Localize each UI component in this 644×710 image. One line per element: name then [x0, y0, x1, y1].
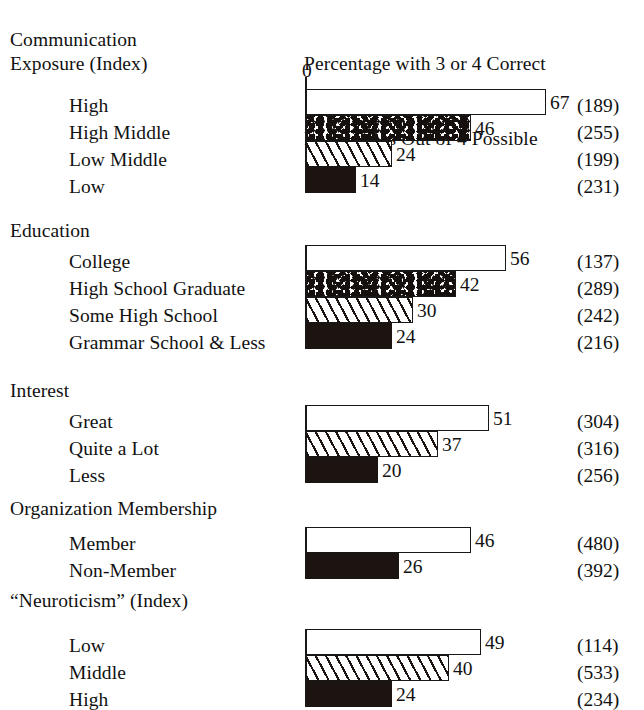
sample-size-label: (242) — [577, 306, 619, 326]
bar — [306, 629, 481, 655]
row-label: Quite a Lot — [69, 439, 159, 459]
group-heading-line: Education — [10, 219, 90, 243]
row-label: Some High School — [69, 306, 218, 326]
bar — [306, 323, 392, 349]
group-heading-line: “Neuroticism” (Index) — [10, 589, 188, 613]
bar — [306, 405, 489, 431]
group-heading: CommunicationExposure (Index) — [10, 28, 148, 76]
row-label: Member — [69, 534, 136, 554]
bar-value-label: 26 — [403, 557, 423, 577]
bar-value-label: 46 — [475, 119, 495, 139]
bar — [306, 431, 438, 457]
row-label: High School Graduate — [69, 279, 245, 299]
sample-size-label: (216) — [577, 333, 619, 353]
group-heading: “Neuroticism” (Index) — [10, 589, 188, 613]
group-heading-line: Communication — [10, 28, 148, 52]
bar-value-label: 20 — [382, 461, 402, 481]
sample-size-label: (316) — [577, 439, 619, 459]
bar — [306, 245, 506, 271]
bar — [306, 681, 392, 707]
sample-size-label: (304) — [577, 412, 619, 432]
row-label: Middle — [69, 663, 126, 683]
bar — [306, 457, 378, 483]
bar — [306, 655, 449, 681]
bar — [306, 527, 471, 553]
bar — [306, 89, 546, 115]
bar — [306, 115, 471, 141]
bar-value-label: 67 — [550, 93, 570, 113]
bar-value-label: 46 — [475, 531, 495, 551]
sample-size-label: (255) — [577, 123, 619, 143]
row-label: Low — [69, 177, 105, 197]
bar — [306, 553, 399, 579]
bar — [306, 167, 356, 193]
group-heading-line: Organization Membership — [10, 497, 217, 521]
sample-size-label: (234) — [577, 690, 619, 710]
sample-size-label: (533) — [577, 663, 619, 683]
sample-size-label: (114) — [577, 636, 619, 656]
group-heading-line: Interest — [10, 379, 69, 403]
row-label: Grammar School & Less — [69, 333, 266, 353]
row-label: High — [69, 690, 108, 710]
sample-size-label: (137) — [577, 252, 619, 272]
row-label: Low — [69, 636, 105, 656]
bar-value-label: 24 — [396, 327, 416, 347]
sample-size-label: (189) — [577, 96, 619, 116]
bar-value-label: 49 — [485, 633, 505, 653]
group-heading: Organization Membership — [10, 497, 217, 521]
bar-value-label: 42 — [460, 275, 480, 295]
group-heading: Interest — [10, 379, 69, 403]
bar-value-label: 24 — [396, 685, 416, 705]
bar — [306, 297, 413, 323]
bar — [306, 141, 392, 167]
bar-value-label: 56 — [510, 249, 530, 269]
row-label: Great — [69, 412, 113, 432]
row-label: Low Middle — [69, 150, 167, 170]
group-heading: Education — [10, 219, 90, 243]
row-label: High Middle — [69, 123, 170, 143]
bar-value-label: 24 — [396, 145, 416, 165]
sample-size-label: (480) — [577, 534, 619, 554]
chart-title-line-1: Percentage with 3 or 4 Correct — [304, 51, 644, 76]
bar-value-label: 51 — [493, 409, 513, 429]
group-heading-line: Exposure (Index) — [10, 52, 148, 76]
sample-size-label: (199) — [577, 150, 619, 170]
row-label: High — [69, 96, 108, 116]
bar-value-label: 14 — [360, 171, 380, 191]
sample-size-label: (289) — [577, 279, 619, 299]
bar-value-label: 37 — [442, 435, 462, 455]
row-label: Less — [69, 466, 105, 486]
row-label: College — [69, 252, 130, 272]
sample-size-label: (392) — [577, 561, 619, 581]
bar — [306, 271, 456, 297]
sample-size-label: (256) — [577, 466, 619, 486]
bar-value-label: 40 — [453, 659, 473, 679]
bar-value-label: 30 — [417, 301, 437, 321]
sample-size-label: (231) — [577, 177, 619, 197]
row-label: Non-Member — [69, 561, 176, 581]
